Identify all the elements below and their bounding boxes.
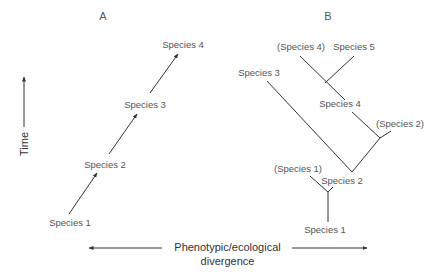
panel-b-title: B [324, 10, 331, 22]
panel-b-species-2: Species 2 [321, 175, 363, 186]
panel-b-species-4: Species 4 [319, 98, 361, 109]
panel-b-species-3: Species 3 [238, 67, 280, 78]
panel-a-species-4: Species 4 [162, 39, 204, 50]
panel-a-arrow-2-3 [109, 114, 137, 154]
diagram-canvas [0, 0, 442, 279]
panel-a-arrow-1-2 [69, 173, 97, 214]
branch-species5 [325, 56, 354, 83]
panel-a-species-3: Species 3 [124, 99, 166, 110]
branch-species2 [328, 187, 333, 192]
branch-species4-ancestral [300, 56, 345, 100]
panel-b-species-2-ancestral: (Species 2) [376, 118, 424, 129]
branch-species2-ancestral [380, 131, 391, 138]
divergence-axis-label-line1: Phenotypic/ecological [165, 240, 290, 254]
branch-species2-node [352, 138, 380, 172]
panel-a-title: A [99, 10, 106, 22]
panel-a-species-2: Species 2 [84, 159, 126, 170]
panel-b-species-4-ancestral: (Species 4) [277, 41, 325, 52]
panel-b-species-5: Species 5 [333, 41, 375, 52]
divergence-axis-label-line2: divergence [165, 254, 290, 268]
panel-a-species-1: Species 1 [49, 217, 91, 228]
divergence-axis-label: Phenotypic/ecological divergence [165, 240, 290, 268]
time-axis-label: Time [18, 132, 30, 156]
panel-b-tree [267, 56, 391, 222]
panel-a-arrow-3-4 [150, 54, 178, 93]
panel-b-species-1-ancestral: (Species 1) [274, 163, 322, 174]
panel-b-species-1: Species 1 [304, 224, 346, 235]
